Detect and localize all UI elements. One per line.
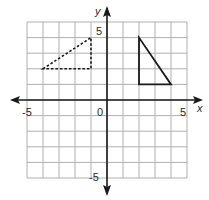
axes [10,6,203,196]
x-tick-label-neg5: -5 [22,106,32,118]
coordinate-plane: x y -5 5 0 5 -5 [0,0,209,200]
x-axis-label: x [196,102,203,114]
axis-labels: x y -5 5 0 5 -5 [22,5,203,183]
y-tick-label-neg5: -5 [89,171,99,183]
x-tick-label-5: 5 [180,106,186,118]
y-axis-label: y [94,5,102,17]
coordinate-plane-figure: x y -5 5 0 5 -5 [0,0,209,200]
y-tick-label-5: 5 [96,25,102,37]
origin-label: 0 [97,106,103,118]
